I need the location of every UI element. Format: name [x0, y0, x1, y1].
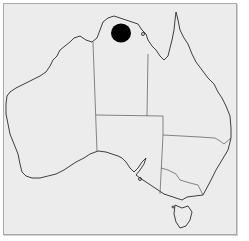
border-nsw-vic	[161, 168, 203, 195]
kangaroo-island	[139, 178, 142, 181]
border-nt-qld	[147, 54, 148, 116]
tasmania-coastline	[174, 205, 192, 228]
king-island	[172, 206, 174, 208]
border-qld-nsw	[163, 135, 231, 144]
border-sa-qld-nsw	[160, 116, 163, 194]
australia-map	[0, 0, 249, 241]
groote-eylandt	[142, 33, 145, 36]
border-nt-sa	[96, 115, 163, 116]
border-wa-nt-sa	[93, 42, 97, 152]
distribution-marker	[111, 24, 131, 43]
